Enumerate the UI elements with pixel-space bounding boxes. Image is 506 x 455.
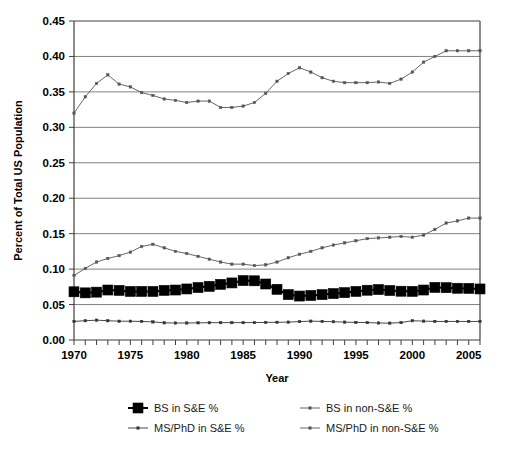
legend-item-3[interactable]: MS/PhD in non-S&E %: [300, 422, 439, 434]
legend-label: MS/PhD in S&E %: [154, 422, 245, 434]
data-point-marker: [445, 320, 447, 322]
data-point-marker: [389, 82, 391, 84]
data-point-marker: [253, 101, 255, 103]
data-point-marker: [321, 320, 323, 322]
data-point-marker: [276, 261, 278, 263]
chart-figure: 0.000.050.100.150.200.250.300.350.400.45…: [0, 0, 506, 455]
data-point-marker: [69, 287, 79, 297]
data-point-marker: [84, 320, 86, 322]
data-point-marker: [298, 67, 300, 69]
data-point-marker: [430, 282, 440, 292]
chart-canvas: 0.000.050.100.150.200.250.300.350.400.45…: [0, 0, 506, 455]
data-point-marker: [73, 320, 75, 322]
data-point-marker: [362, 285, 372, 295]
data-point-marker: [328, 289, 338, 299]
data-point-marker: [309, 407, 311, 409]
legend-item-2[interactable]: MS/PhD in S&E %: [128, 422, 245, 434]
data-point-marker: [107, 257, 109, 259]
data-point-marker: [193, 283, 203, 293]
data-point-marker: [377, 81, 379, 83]
y-tick-label: 0.35: [43, 86, 66, 98]
data-point-marker: [197, 100, 199, 102]
legend-label: BS in S&E %: [154, 402, 218, 414]
y-tick-label: 0.30: [43, 121, 65, 133]
data-point-marker: [204, 281, 214, 291]
data-point-marker: [468, 217, 470, 219]
data-point-marker: [396, 286, 406, 296]
data-point-marker: [219, 321, 221, 323]
legend-label: BS in non-S&E %: [326, 402, 412, 414]
data-point-marker: [441, 283, 451, 293]
data-point-marker: [253, 321, 255, 323]
data-point-marker: [84, 267, 86, 269]
data-point-marker: [163, 98, 165, 100]
data-point-marker: [321, 247, 323, 249]
data-point-marker: [343, 321, 345, 323]
data-point-marker: [118, 320, 120, 322]
data-point-marker: [468, 320, 470, 322]
data-point-marker: [197, 255, 199, 257]
data-point-marker: [366, 321, 368, 323]
data-point-marker: [343, 81, 345, 83]
data-point-marker: [400, 78, 402, 80]
data-point-marker: [411, 320, 413, 322]
data-point-marker: [340, 288, 350, 298]
data-point-marker: [456, 320, 458, 322]
data-point-marker: [276, 80, 278, 82]
data-point-marker: [137, 427, 139, 429]
data-point-marker: [92, 287, 102, 297]
data-point-marker: [434, 320, 436, 322]
y-tick-label: 0.40: [43, 50, 65, 62]
data-point-marker: [171, 285, 181, 295]
data-point-marker: [114, 285, 124, 295]
data-point-marker: [73, 274, 75, 276]
data-point-marker: [276, 321, 278, 323]
data-point-marker: [186, 101, 188, 103]
data-point-marker: [321, 77, 323, 79]
data-point-marker: [152, 321, 154, 323]
data-point-marker: [174, 322, 176, 324]
chart-legend: BS in S&E %BS in non-S&E %MS/PhD in S&E …: [128, 402, 439, 434]
data-point-marker: [73, 112, 75, 114]
data-point-marker: [152, 94, 154, 96]
data-point-marker: [287, 72, 289, 74]
data-point-marker: [129, 86, 131, 88]
legend-item-0[interactable]: BS in S&E %: [128, 402, 218, 414]
data-point-marker: [163, 322, 165, 324]
data-point-marker: [411, 71, 413, 73]
data-point-marker: [133, 403, 143, 413]
data-point-marker: [407, 286, 417, 296]
data-point-marker: [434, 55, 436, 57]
data-point-marker: [174, 250, 176, 252]
y-tick-label: 0.25: [43, 157, 66, 169]
data-point-marker: [95, 82, 97, 84]
legend-label: MS/PhD in non-S&E %: [326, 422, 439, 434]
data-point-marker: [231, 263, 233, 265]
x-tick-label: 1970: [61, 349, 87, 361]
data-point-marker: [310, 320, 312, 322]
data-point-marker: [310, 250, 312, 252]
x-tick-label: 2005: [456, 349, 482, 361]
x-axis-title: Year: [265, 372, 289, 384]
data-point-marker: [272, 284, 282, 294]
data-point-marker: [475, 284, 485, 294]
data-point-marker: [208, 258, 210, 260]
data-point-marker: [186, 252, 188, 254]
data-point-marker: [309, 427, 311, 429]
data-point-marker: [227, 278, 237, 288]
data-point-marker: [95, 319, 97, 321]
data-point-marker: [306, 290, 316, 300]
data-point-marker: [479, 217, 481, 219]
data-point-marker: [400, 321, 402, 323]
data-point-marker: [238, 276, 248, 286]
legend-item-1[interactable]: BS in non-S&E %: [300, 402, 412, 414]
x-tick-label: 1975: [118, 349, 144, 361]
data-point-marker: [374, 285, 384, 295]
series-0: [69, 276, 485, 301]
data-point-marker: [265, 264, 267, 266]
data-point-marker: [137, 286, 147, 296]
data-point-marker: [422, 234, 424, 236]
data-point-marker: [445, 222, 447, 224]
data-point-marker: [219, 261, 221, 263]
data-point-marker: [129, 251, 131, 253]
